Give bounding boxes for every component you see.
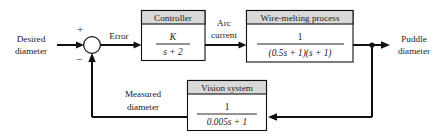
block-vision-system-title: Vision system (201, 83, 253, 93)
block-wire-melting-process-title: Wire-melting process (261, 13, 340, 23)
block-controller-denominator: s + 2 (163, 47, 183, 57)
block-controller-title: Controller (154, 13, 192, 23)
block-wire-melting-process[interactable]: Wire-melting process 1 (0.5s + 1)(s + 1) (247, 11, 354, 63)
block-diagram-canvas: + − Controller K s + 2 Wire-melting proc… (0, 0, 441, 140)
wire-controller-to-plant (205, 41, 247, 48)
block-wire-melting-process-numerator: 1 (298, 32, 303, 42)
sum-plus-sign: + (77, 23, 83, 35)
label-puddle-diameter-line2: diameter (398, 46, 430, 56)
label-desired-diameter-line1: Desired (17, 34, 46, 44)
label-error: Error (109, 31, 128, 41)
block-wire-melting-process-denominator: (0.5s + 1)(s + 1) (269, 48, 332, 59)
wire-feedback-takeoff (369, 42, 374, 117)
label-puddle-diameter-line1: Puddle (401, 34, 427, 44)
label-measured-diameter-line2: diameter (127, 102, 159, 112)
block-controller-numerator: K (169, 32, 177, 42)
label-arc-current-line2: current (211, 30, 237, 40)
sum-minus-sign: − (76, 53, 82, 65)
block-vision-system-numerator: 1 (225, 102, 230, 112)
wire-sensor-to-sum-vertical (88, 53, 95, 117)
block-vision-system[interactable]: Vision system 1 0.005s + 1 (188, 81, 267, 131)
block-vision-system-denominator: 0.005s + 1 (207, 117, 247, 127)
label-measured-diameter-line1: Measured (125, 89, 162, 99)
label-arc-current-line1: Arc (217, 18, 231, 28)
block-diagram-svg: + − Controller K s + 2 Wire-melting proc… (0, 0, 441, 140)
label-desired-diameter-line2: diameter (15, 46, 47, 56)
wire-input-to-sum (57, 41, 84, 48)
summing-junction (84, 37, 101, 54)
wire-takeoff-to-sensor (268, 113, 372, 121)
block-controller[interactable]: Controller K s + 2 (142, 11, 206, 61)
wire-sum-to-controller (100, 41, 142, 48)
